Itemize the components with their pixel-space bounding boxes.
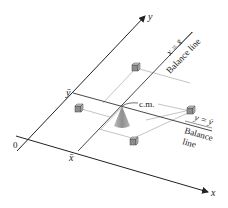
origin-label: 0 xyxy=(13,140,18,150)
center-of-mass-label: c.m. xyxy=(139,99,155,109)
balance-line-y-caption-2: line xyxy=(181,136,197,149)
balance-line-diagram: y x 0 ȳ x̄ c.m. x = x̄ Balance line y = … xyxy=(0,0,228,208)
x-bar-axis-mark: x̄ xyxy=(68,152,74,163)
y-bar-axis-mark: ȳ xyxy=(65,87,71,98)
mass-cube-icon xyxy=(130,137,138,145)
mass-cube-icon xyxy=(132,63,140,71)
y-axis xyxy=(17,16,145,151)
fulcrum-cone-icon xyxy=(114,106,130,128)
cm-leader-line xyxy=(122,103,138,106)
y-axis-label: y xyxy=(147,11,153,22)
mass-cube-icon xyxy=(187,106,195,114)
x-axis-label: x xyxy=(210,187,216,198)
x-axis xyxy=(16,136,208,192)
diagram-canvas: y x 0 ȳ x̄ c.m. x = x̄ Balance line y = … xyxy=(0,0,228,208)
mass-cube-icon xyxy=(75,104,83,112)
balance-line-y-equation: y = ȳ xyxy=(192,112,215,127)
